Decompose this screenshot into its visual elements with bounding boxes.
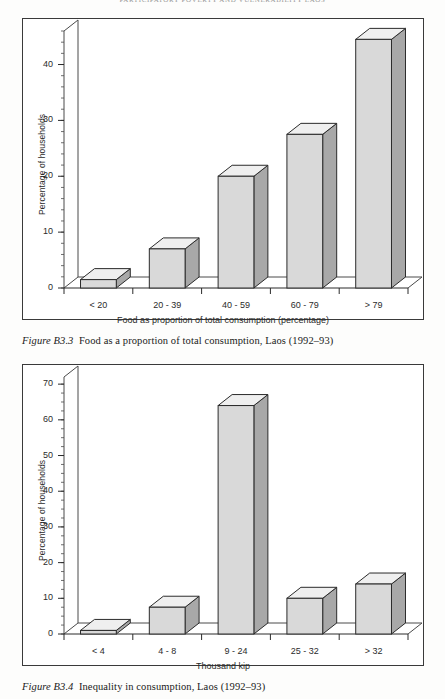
y-axis-tick-label: 40 <box>31 59 53 69</box>
y-axis-tick-label: 70 <box>31 378 53 388</box>
bar-3 <box>218 165 268 288</box>
bar-2 <box>149 238 199 288</box>
y-axis-title: Percentage of households <box>37 113 47 214</box>
x-axis-tick-label: 60 - 79 <box>268 300 342 310</box>
x-axis-tick-label: 25 - 32 <box>268 646 342 656</box>
y-axis-tick-label: 50 <box>31 450 53 460</box>
figure-frame-b3-4: 010203040506070Percentage of households<… <box>22 364 424 666</box>
y-axis-tick-label: 10 <box>31 592 53 602</box>
x-axis-tick-label: 40 - 59 <box>199 300 273 310</box>
bar-4 <box>287 123 337 288</box>
x-axis-tick-label: 9 - 24 <box>199 646 273 656</box>
bar-1 <box>81 619 131 634</box>
x-axis-tick-label: < 4 <box>61 646 135 656</box>
x-axis-tick-label: 4 - 8 <box>130 646 204 656</box>
bar-4 <box>287 587 337 634</box>
x-axis-tick-label: 20 - 39 <box>130 300 204 310</box>
y-axis-tick-label: 0 <box>31 282 53 292</box>
y-axis-tick-label: 10 <box>31 226 53 236</box>
bar-5 <box>356 573 406 634</box>
bar-1 <box>81 269 131 288</box>
bar-2 <box>149 596 199 634</box>
figure-caption-b3-3: Figure B3.3 Food as a proportion of tota… <box>22 335 427 346</box>
figure-caption-text-b3-4: Inequality in consumption, Laos (1992–93… <box>79 681 265 692</box>
figure-caption-b3-4: Figure B3.4 Inequality in consumption, L… <box>22 681 427 692</box>
chart-svg <box>23 365 423 665</box>
x-axis-tick-label: > 79 <box>337 300 411 310</box>
bar-3 <box>218 395 268 634</box>
book-page: PARTICIPATORY POVERTY AND VULNERABILITY … <box>0 0 445 699</box>
figure-frame-b3-3: 010203040Percentage of households< 2020 … <box>22 18 424 320</box>
y-axis-tick-label: 60 <box>31 414 53 424</box>
figure-caption-label-b3-3: Figure B3.3 <box>22 335 73 346</box>
bar-chart-food-proportion: 010203040Percentage of households< 2020 … <box>23 19 423 319</box>
x-axis-title: Food as proportion of total consumption … <box>23 315 423 325</box>
running-head: PARTICIPATORY POVERTY AND VULNERABILITY … <box>0 0 445 4</box>
bar-chart-inequality: 010203040506070Percentage of households<… <box>23 365 423 665</box>
y-axis-tick-label: 0 <box>31 628 53 638</box>
figure-caption-text-b3-3: Food as a proportion of total consumptio… <box>79 335 333 346</box>
chart-svg <box>23 19 423 319</box>
bar-5 <box>356 28 406 288</box>
x-axis-title: Thousand kip <box>23 661 423 671</box>
y-axis-title: Percentage of households <box>37 459 47 560</box>
x-axis-tick-label: < 20 <box>61 300 135 310</box>
x-axis-tick-label: > 32 <box>337 646 411 656</box>
figure-caption-label-b3-4: Figure B3.4 <box>22 681 73 692</box>
